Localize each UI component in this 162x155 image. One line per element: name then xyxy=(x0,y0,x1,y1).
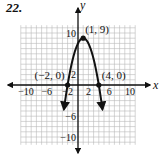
x-tick-label: −6 xyxy=(41,86,52,97)
x-tick-label: −10 xyxy=(18,86,34,97)
x-tick-label: 10 xyxy=(125,86,135,97)
y-tick-label: −10 xyxy=(60,132,76,143)
y-tick-label: 2 xyxy=(71,69,76,80)
point-label: (1, 9) xyxy=(85,23,109,36)
x-axis-label: x xyxy=(152,78,159,92)
y-axis-label: y xyxy=(79,0,86,12)
point-marker xyxy=(96,82,101,87)
x-tick-label: 6 xyxy=(107,86,112,97)
point-label: (4, 0) xyxy=(102,69,126,82)
y-tick-label: 10 xyxy=(66,28,76,39)
axes: xy xyxy=(8,0,159,153)
x-tick-label: −2 xyxy=(62,86,73,97)
point-label: (−2, 0) xyxy=(35,69,65,82)
x-tick-label: 2 xyxy=(86,86,91,97)
y-tick-label: −6 xyxy=(65,111,76,122)
point-marker xyxy=(81,36,86,41)
parabola-graph: xy (1, 9)(−2, 0)(4, 0) −10−6−22610102−6−… xyxy=(0,0,162,155)
